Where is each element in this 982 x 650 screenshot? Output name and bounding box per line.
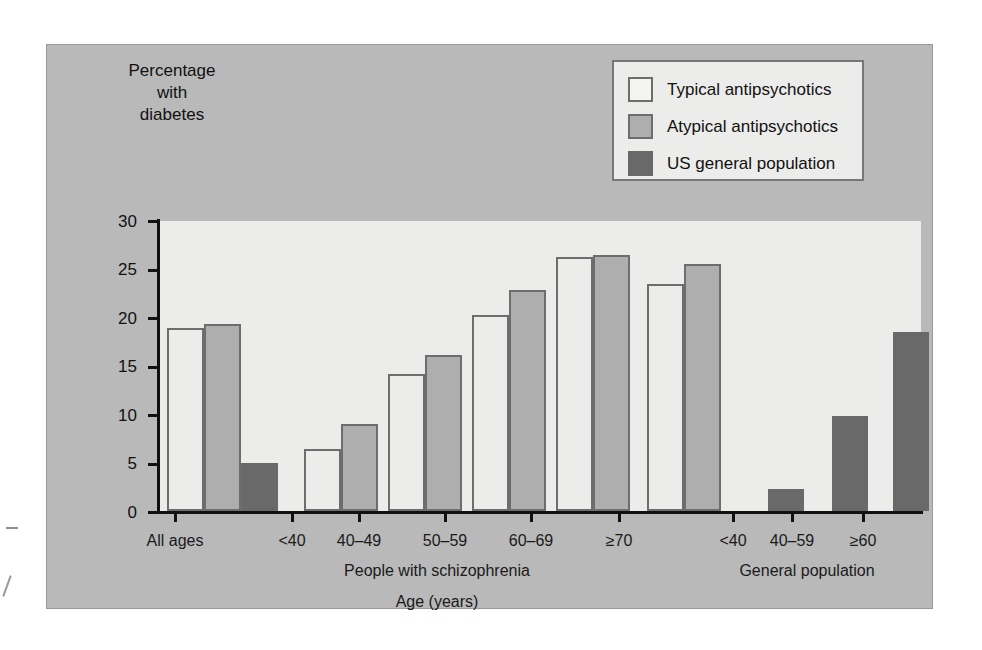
bar-typical-9 [556,257,593,511]
bar-typical-3 [304,449,341,511]
group-label-1: General population [739,562,874,580]
y-axis-tick-0 [148,511,158,514]
y-axis-tick-label-0: 0 [97,504,137,521]
x-axis-tick-label-3: 50–59 [423,532,468,550]
x-axis-title: Age (years) [396,593,479,611]
x-axis-tick-label-4: 60–69 [509,532,554,550]
bar-general-2 [241,463,278,512]
bar-general-14 [832,416,868,511]
y-axis-tick-25 [148,269,158,272]
bar-atypical-4 [341,424,378,511]
x-axis-tick-label-1: <40 [278,532,305,550]
legend-entry-atypical: Atypical antipsychotics [628,108,862,145]
x-axis-tick-0 [174,514,177,522]
x-axis-tick-6 [732,514,735,522]
x-axis-tick-label-0: All ages [147,532,204,550]
legend-label-atypical: Atypical antipsychotics [667,117,838,137]
x-axis-tick-label-8: ≥60 [850,532,877,550]
x-axis-tick-8 [862,514,865,522]
x-axis-tick-4 [530,514,533,522]
bar-typical-7 [472,315,509,511]
page-artifact-slash [2,575,11,596]
y-axis-tick-5 [148,463,158,466]
bar-general-13 [768,489,804,511]
x-axis-tick-label-5: ≥70 [606,532,633,550]
y-axis-tick-label-25: 25 [97,261,137,278]
y-axis-tick-10 [148,414,158,417]
chart-legend: Typical antipsychotics Atypical antipsyc… [612,60,864,181]
x-axis-tick-7 [791,514,794,522]
chart-figure-panel: Percentage with diabetes Typical antipsy… [47,45,932,608]
y-axis-tick-label-15: 15 [97,358,137,375]
y-axis-tick-label-5: 5 [97,455,137,472]
x-axis-tick-5 [618,514,621,522]
legend-label-general: US general population [667,154,835,174]
bar-typical-0 [167,328,204,511]
y-axis-title-line-3: diabetes [107,104,237,126]
x-axis-line [157,511,923,514]
bar-atypical-8 [509,290,546,511]
y-axis-title-line-1: Percentage [107,60,237,82]
bar-atypical-10 [593,255,630,511]
legend-swatch-atypical-icon [628,114,653,139]
x-axis-tick-label-2: 40–49 [337,532,382,550]
y-axis-tick-30 [148,220,158,223]
y-axis-tick-15 [148,366,158,369]
x-axis-tick-label-6: <40 [719,532,746,550]
bar-atypical-6 [425,355,462,511]
legend-swatch-general-icon [628,151,653,176]
bar-typical-11 [647,284,684,511]
legend-label-typical: Typical antipsychotics [667,80,831,100]
x-axis-tick-label-7: 40–59 [770,532,815,550]
x-axis-tick-3 [444,514,447,522]
y-axis-title: Percentage with diabetes [107,60,237,125]
bar-atypical-12 [684,264,721,511]
legend-swatch-typical-icon [628,77,653,102]
y-axis-tick-20 [148,317,158,320]
bar-typical-5 [388,374,425,511]
group-label-0: People with schizophrenia [344,562,530,580]
y-axis-title-line-2: with [107,82,237,104]
bar-atypical-1 [204,324,241,511]
legend-entry-general: US general population [628,145,862,182]
page-artifact-dash [6,527,18,529]
bar-general-15 [893,332,929,511]
x-axis-tick-2 [358,514,361,522]
y-axis-tick-label-30: 30 [97,213,137,230]
legend-entry-typical: Typical antipsychotics [628,71,862,108]
y-axis-tick-label-10: 10 [97,407,137,424]
y-axis-tick-label-20: 20 [97,310,137,327]
x-axis-tick-1 [291,514,294,522]
